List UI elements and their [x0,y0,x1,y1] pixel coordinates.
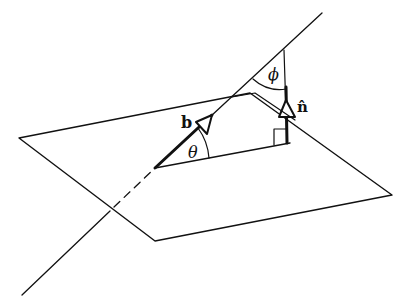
label-n-hat: n̂ [297,98,308,116]
line-hidden-dashed [114,168,155,207]
label-phi: ϕ [268,65,279,84]
label-b: b [181,113,192,132]
label-theta: θ [188,143,198,162]
vector-b-arrowhead-icon [196,115,212,134]
projection-line [155,143,290,168]
diagram-canvas: b n̂ θ ϕ [0,0,399,297]
line-lower [22,211,110,295]
right-angle-marker [274,129,287,145]
plane [19,93,392,241]
plane-line-diagram: b n̂ θ ϕ [0,0,399,297]
